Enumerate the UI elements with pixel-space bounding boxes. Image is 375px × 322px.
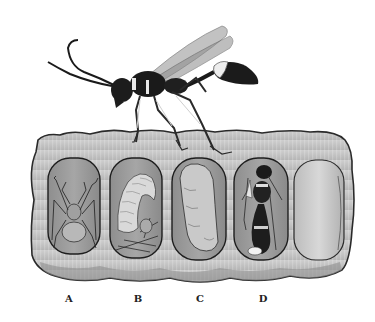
cell-c-pupa [172, 158, 226, 260]
label-b: B [131, 293, 145, 304]
cell-d-adult-wasp [234, 158, 288, 260]
wasp-nest-illustration [0, 0, 375, 322]
label-d: D [256, 293, 270, 304]
cell-empty-sealed [294, 160, 344, 260]
cell-a-spider [48, 158, 100, 254]
label-c: C [193, 293, 207, 304]
label-a: A [62, 293, 76, 304]
cell-b-larva [110, 158, 162, 258]
